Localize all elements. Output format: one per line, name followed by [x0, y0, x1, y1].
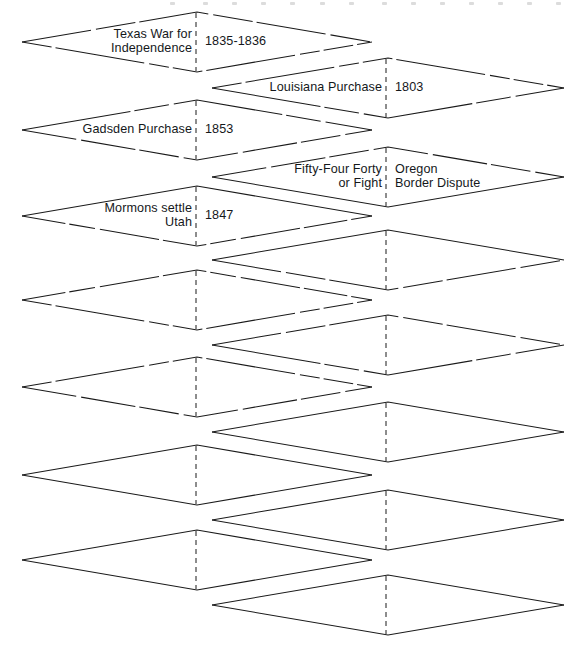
diamond-labels-layer: Texas War for Independence1835-1836Louis… [0, 0, 584, 650]
diamond-left-label: Gadsden Purchase [83, 122, 192, 136]
diamond-left-label: Fifty-Four Forty or Fight [294, 162, 382, 191]
diamond-right-label: 1853 [205, 122, 233, 136]
diamond-right-label: 1847 [205, 208, 233, 222]
diamond-left-label: Texas War for Independence [111, 27, 192, 56]
diamond-right-label: 1803 [395, 80, 423, 94]
diamond-right-label: Oregon Border Dispute [395, 162, 480, 191]
diamond-left-label: Mormons settle Utah [105, 201, 192, 230]
diamond-left-label: Louisiana Purchase [270, 80, 382, 94]
diamond-right-label: 1835-1836 [205, 34, 266, 48]
diamond-matching-diagram: Texas War for Independence1835-1836Louis… [0, 0, 584, 650]
